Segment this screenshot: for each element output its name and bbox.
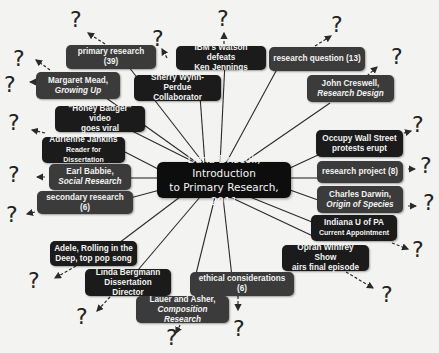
question-mark-icon: ? [217, 8, 229, 30]
node-label: Adrienne Jankins [49, 135, 117, 145]
node-label: research question (13) [273, 54, 360, 64]
node-label: Indiana U of PA [324, 218, 384, 228]
node-margaret-mead[interactable]: Margaret Mead, Growing Up [36, 72, 120, 99]
node-adele[interactable]: Adele, Rolling in the Deep, top pop song [50, 241, 137, 266]
node-label: "Honey Badger" video [59, 104, 141, 124]
node-adrienne-jankins[interactable]: Adrienne Jankins Reader for Dissertation [42, 137, 125, 163]
question-mark-icon: ? [166, 327, 178, 349]
question-mark-icon: ? [8, 112, 20, 134]
node-ibm-watson[interactable]: IBM's Watson defeats Ken Jennings [176, 46, 266, 70]
node-label: Adele, Rolling in the [54, 244, 133, 254]
node-honey-badger[interactable]: "Honey Badger" video goes viral [55, 106, 145, 132]
node-label: Linda Bergmann [96, 268, 161, 278]
node-sherry-wynn-perdue[interactable]: Sherry Wynn-Perdue Collaborator [134, 75, 221, 101]
node-charles-darwin[interactable]: Charles Darwin, Origin of Species [317, 186, 403, 213]
node-oprah[interactable]: Oprah Winfrey Show airs final episode [282, 245, 369, 271]
node-label: secondary research (6) [41, 193, 129, 213]
question-mark-icon: ? [8, 164, 20, 186]
center-node-line1: Dana Driscoll, Introduction [157, 152, 291, 180]
node-lauer-asher[interactable]: Lauer and Asher, Composition Research [136, 296, 229, 323]
question-mark-icon: ? [4, 74, 16, 96]
node-primary-research[interactable]: primary research (39) [66, 45, 156, 69]
question-mark-icon: ? [331, 14, 343, 36]
node-sublabel: Research Design [317, 89, 383, 99]
concept-map: ? ? ? ? ? ? ? ? ? ? ? ? ? ? ? ? ? ? ? Da… [0, 0, 439, 353]
question-mark-icon: ? [233, 318, 245, 340]
question-mark-icon: ? [28, 270, 40, 292]
node-john-creswell[interactable]: John Creswell, Research Design [307, 75, 394, 102]
node-research-question[interactable]: research question (13) [269, 47, 365, 71]
question-mark-icon: ? [70, 9, 82, 31]
node-indiana-u-pa[interactable]: Indiana U of PA Current Appointment [311, 215, 397, 241]
center-node[interactable]: Dana Driscoll, Introduction to Primary R… [157, 162, 291, 198]
node-sublabel: Deep, top pop song [55, 254, 131, 264]
question-mark-icon: ? [412, 239, 424, 261]
node-sublabel: Reader for Dissertation [46, 145, 121, 165]
node-label: Earl Babbie, [66, 167, 113, 177]
center-node-line2: to Primary Research, 2011 [157, 180, 291, 208]
node-label: Lauer and Asher, [149, 295, 215, 305]
node-sublabel: airs final episode [292, 263, 359, 273]
question-mark-icon: ? [381, 284, 393, 306]
node-label: Margaret Mead, [48, 76, 108, 86]
node-sublabel: Origin of Species [326, 200, 393, 210]
question-mark-icon: ? [6, 204, 18, 226]
question-mark-icon: ? [13, 48, 25, 70]
node-label: IBM's Watson defeats [180, 43, 262, 63]
node-label: primary research (39) [70, 47, 152, 67]
node-research-project[interactable]: research project (8) [317, 161, 403, 183]
node-label: Sherry Wynn-Perdue [138, 73, 217, 93]
question-mark-icon: ? [412, 114, 424, 136]
question-mark-icon: ? [420, 155, 432, 177]
node-sublabel: protests erupt [332, 144, 387, 154]
question-mark-icon: ? [391, 46, 403, 68]
question-mark-icon: ? [423, 192, 435, 214]
node-occupy-wall-street[interactable]: Occupy Wall Street protests erupt [316, 130, 403, 157]
node-sublabel: Growing Up [55, 86, 101, 96]
node-label: Oprah Winfrey Show [286, 243, 365, 263]
node-label: Occupy Wall Street [322, 134, 396, 144]
node-earl-babbie[interactable]: Earl Babbie, Social Research [49, 164, 131, 190]
node-sublabel: goes viral [81, 124, 119, 134]
node-sublabel: Collaborator [153, 93, 202, 103]
node-secondary-research[interactable]: secondary research (6) [37, 191, 133, 214]
node-ethical-considerations[interactable]: ethical considerations (6) [190, 272, 294, 296]
node-label: ethical considerations (6) [194, 274, 290, 294]
node-sublabel: Ken Jennings [194, 63, 248, 73]
node-label: research project (8) [322, 167, 398, 177]
node-label: John Creswell, [322, 79, 380, 89]
node-sublabel: Composition Research [140, 305, 225, 325]
node-label: Charles Darwin, [329, 190, 391, 200]
question-mark-icon: ? [76, 306, 88, 328]
node-sublabel: Current Appointment [319, 228, 389, 238]
node-sublabel: Social Research [58, 177, 121, 187]
node-linda-bergmann[interactable]: Linda Bergmann Dissertation Director [85, 269, 171, 296]
